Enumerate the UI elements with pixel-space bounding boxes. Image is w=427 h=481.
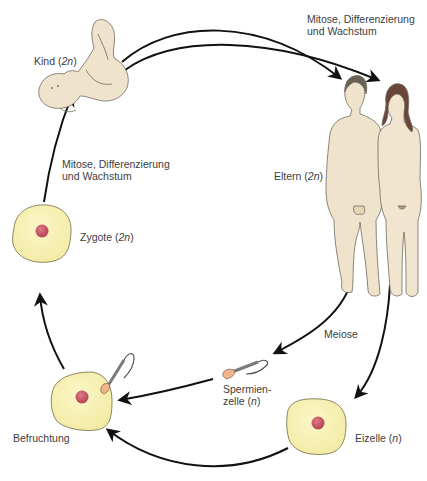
label-zygote: Zygote (2n) bbox=[80, 231, 134, 243]
label-mitose-top-line1: Mitose, Differenzierung bbox=[307, 13, 415, 25]
label-mitose-top-line2: und Wachstum bbox=[307, 25, 415, 37]
label-befruchtung: Befruchtung bbox=[13, 432, 70, 444]
label-mitose-left-line1: Mitose, Differenzierung bbox=[62, 158, 170, 170]
arrow-zygote-to-child bbox=[44, 95, 72, 202]
label-kind: Kind (2n) bbox=[34, 55, 77, 67]
fertilization-cell bbox=[51, 354, 134, 431]
nucleus bbox=[36, 225, 49, 238]
arrow-fertilization-to-zygote bbox=[40, 295, 64, 369]
mother-figure bbox=[378, 84, 421, 297]
label-mitose-left-line2: und Wachstum bbox=[62, 170, 170, 182]
life-cycle-diagram bbox=[0, 0, 427, 481]
sperm-cell bbox=[223, 360, 268, 379]
label-meiose: Meiose bbox=[324, 328, 358, 340]
nucleus bbox=[76, 391, 89, 404]
sperm-entering bbox=[101, 354, 134, 394]
nucleus bbox=[312, 417, 325, 430]
label-eizelle: Eizelle (n) bbox=[355, 432, 402, 444]
zygote-cell bbox=[13, 205, 71, 262]
label-mitose-left: Mitose, Differenzierung und Wachstum bbox=[62, 158, 170, 182]
father-figure bbox=[326, 76, 384, 296]
label-eltern: Eltern (2n) bbox=[274, 170, 323, 182]
egg-cell bbox=[287, 399, 346, 455]
arrow-kind-to-parents bbox=[122, 31, 378, 80]
parents-illustration bbox=[326, 76, 421, 297]
label-spermienzelle: Spermien- zelle (n) bbox=[223, 383, 271, 407]
label-mitose-top: Mitose, Differenzierung und Wachstum bbox=[307, 13, 415, 37]
